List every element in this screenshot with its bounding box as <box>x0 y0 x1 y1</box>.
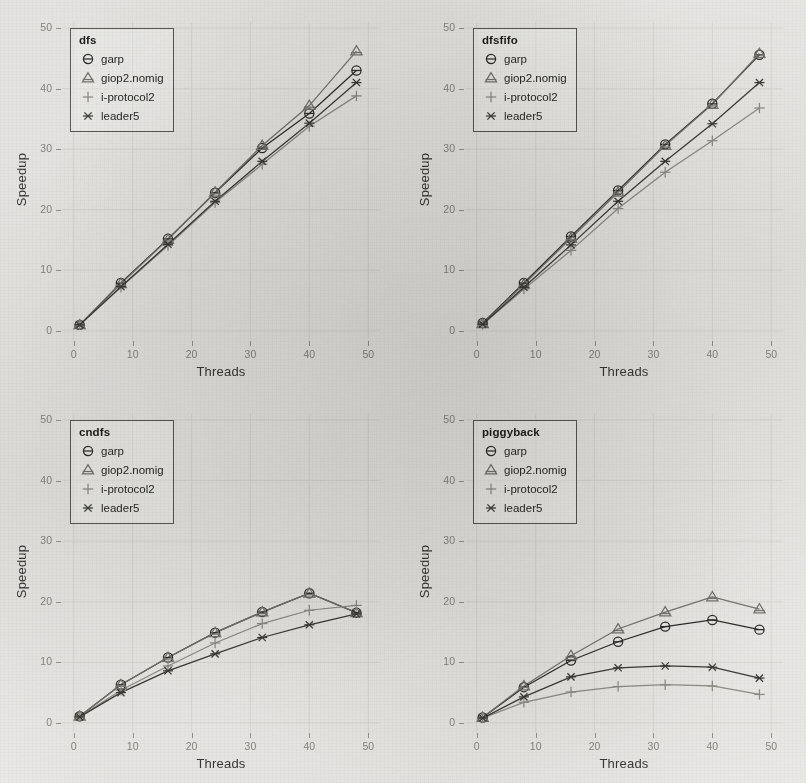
data-point-marker-triangle-hline <box>485 464 496 473</box>
x-tick-label: 0 <box>457 348 497 360</box>
x-tick-label: 30 <box>633 348 673 360</box>
legend-entry-iprotocol2: i-protocol2 <box>481 479 567 498</box>
y-tick-label: 10 <box>22 263 52 275</box>
plus-icon <box>78 88 98 106</box>
x-tick-mark <box>250 341 251 346</box>
data-point-marker-asterisk <box>83 112 93 119</box>
x-tick-label: 20 <box>575 348 615 360</box>
y-tick-mark <box>56 270 61 271</box>
legend-entry-label: garp <box>101 445 124 457</box>
x-tick-label: 10 <box>516 348 556 360</box>
y-tick-mark <box>56 481 61 482</box>
y-tick-label: 0 <box>22 324 52 336</box>
legend-entry-iprotocol2: i-protocol2 <box>78 87 164 106</box>
y-tick-mark <box>459 210 464 211</box>
legend-entry-label: leader5 <box>504 110 542 122</box>
legend-entry-giop2: giop2.nomig <box>481 68 567 87</box>
x-tick-mark <box>771 341 772 346</box>
triangle-hline-icon <box>78 69 98 87</box>
circle-hline-icon <box>481 442 501 460</box>
data-point-marker-circle-hline <box>614 637 623 646</box>
x-tick-mark <box>192 341 193 346</box>
x-tick-mark <box>477 733 478 738</box>
y-tick-mark <box>56 723 61 724</box>
data-point-marker-plus <box>257 618 267 628</box>
plot-canvas-cndfs <box>0 392 403 783</box>
y-tick-mark <box>56 28 61 29</box>
legend-entry-garp: garp <box>78 441 164 460</box>
y-tick-mark <box>56 541 61 542</box>
legend-cndfs: cndfsgarpgiop2.nomigi-protocol2leader5 <box>70 420 174 524</box>
legend-entry-leader5: leader5 <box>78 106 164 125</box>
y-axis-label: Speedup <box>417 125 432 235</box>
x-tick-mark <box>250 733 251 738</box>
x-tick-mark <box>712 341 713 346</box>
y-tick-mark <box>56 149 61 150</box>
legend-entry-label: leader5 <box>504 502 542 514</box>
y-tick-label: 50 <box>22 21 52 33</box>
y-tick-label: 0 <box>425 716 455 728</box>
x-tick-mark <box>595 733 596 738</box>
legend-entry-label: garp <box>504 445 527 457</box>
x-tick-mark <box>477 341 478 346</box>
data-point-marker-plus <box>83 91 93 101</box>
x-axis-label: Threads <box>465 364 783 379</box>
y-tick-label: 40 <box>425 474 455 486</box>
x-tick-mark <box>309 733 310 738</box>
y-tick-mark <box>56 420 61 421</box>
data-point-marker-asterisk <box>257 634 267 641</box>
x-tick-label: 20 <box>575 740 615 752</box>
legend-entry-label: i-protocol2 <box>101 483 155 495</box>
y-tick-label: 0 <box>425 324 455 336</box>
y-axis-label: Speedup <box>14 125 29 235</box>
y-axis-label: Speedup <box>417 517 432 627</box>
x-axis-label: Threads <box>62 364 380 379</box>
x-tick-mark <box>771 733 772 738</box>
data-point-marker-asterisk <box>754 674 764 681</box>
legend-piggyback: piggybackgarpgiop2.nomigi-protocol2leade… <box>473 420 577 524</box>
x-tick-mark <box>653 341 654 346</box>
x-tick-label: 50 <box>751 348 791 360</box>
triangle-hline-icon <box>481 461 501 479</box>
data-point-marker-asterisk <box>660 662 670 669</box>
data-point-marker-triangle-hline <box>485 72 496 81</box>
data-point-marker-plus <box>304 605 314 615</box>
data-point-marker-plus <box>210 638 220 648</box>
x-tick-label: 40 <box>289 740 329 752</box>
legend-dfs: dfsgarpgiop2.nomigi-protocol2leader5 <box>70 28 174 132</box>
legend-entry-label: i-protocol2 <box>101 91 155 103</box>
triangle-hline-icon <box>481 69 501 87</box>
y-tick-label: 10 <box>22 655 52 667</box>
legend-entry-iprotocol2: i-protocol2 <box>78 479 164 498</box>
y-tick-label: 0 <box>22 716 52 728</box>
y-tick-mark <box>459 270 464 271</box>
legend-entry-garp: garp <box>481 49 567 68</box>
x-tick-mark <box>309 341 310 346</box>
data-point-marker-plus <box>754 103 764 113</box>
data-point-marker-plus <box>486 483 496 493</box>
figure-panel-grid: 0102030405001020304050SpeedupThreadsdfsg… <box>0 0 806 783</box>
x-tick-label: 20 <box>172 740 212 752</box>
legend-entry-leader5: leader5 <box>78 498 164 517</box>
legend-title: cndfs <box>79 426 164 438</box>
data-point-marker-asterisk <box>486 504 496 511</box>
x-tick-mark <box>712 733 713 738</box>
data-point-marker-circle-hline <box>83 446 92 455</box>
y-tick-mark <box>56 602 61 603</box>
data-point-marker-asterisk <box>210 650 220 657</box>
y-tick-mark <box>459 28 464 29</box>
x-tick-label: 50 <box>348 740 388 752</box>
legend-entry-giop2: giop2.nomig <box>78 68 164 87</box>
panel-piggyback: 0102030405001020304050SpeedupThreadspigg… <box>403 392 806 783</box>
data-point-marker-circle-hline <box>486 54 495 63</box>
y-tick-mark <box>459 331 464 332</box>
y-tick-label: 10 <box>425 655 455 667</box>
data-point-marker-plus <box>351 91 361 101</box>
data-point-marker-plus <box>566 687 576 697</box>
y-tick-mark <box>459 149 464 150</box>
data-point-marker-circle-hline <box>486 446 495 455</box>
legend-entry-label: giop2.nomig <box>101 72 164 84</box>
asterisk-icon <box>78 499 98 517</box>
y-tick-mark <box>56 89 61 90</box>
x-tick-label: 30 <box>230 348 270 360</box>
